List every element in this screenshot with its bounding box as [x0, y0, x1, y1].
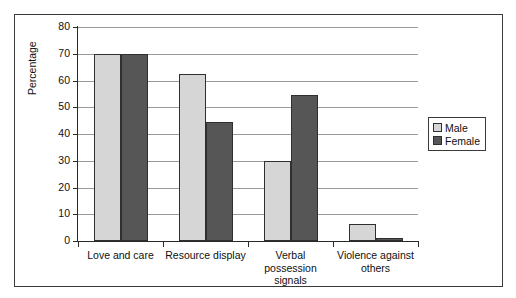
- x-tick-mark: [333, 241, 334, 247]
- y-tick-mark: [73, 81, 78, 82]
- y-tick-mark: [73, 107, 78, 108]
- plot-area: [78, 27, 418, 241]
- bar-male-0: [94, 54, 121, 241]
- y-tick-mark: [73, 54, 78, 55]
- y-tick-mark: [73, 27, 78, 28]
- bar-female-2: [291, 95, 318, 241]
- x-axis-label-0: Love and care: [78, 249, 163, 262]
- bar-male-2: [264, 161, 291, 241]
- legend-item-female[interactable]: Female: [433, 134, 480, 147]
- y-tick-mark: [73, 134, 78, 135]
- legend-label-male: Male: [445, 122, 468, 134]
- y-tick-label: 30: [58, 154, 70, 167]
- x-axis-label-3: Violence against others: [333, 249, 418, 274]
- y-tick-mark: [73, 161, 78, 162]
- bar-female-1: [206, 122, 233, 241]
- y-tick-label: 80: [58, 20, 70, 33]
- x-tick-mark: [418, 241, 419, 247]
- y-tick-label: 40: [58, 127, 70, 140]
- x-tick-mark: [248, 241, 249, 247]
- x-axis-label-1: Resource display: [163, 249, 248, 262]
- x-axis-label-2: Verbal possession signals: [248, 249, 333, 287]
- legend-item-male[interactable]: Male: [433, 121, 480, 134]
- y-axis-title: Percentage: [26, 41, 38, 95]
- y-tick-label: 20: [58, 181, 70, 194]
- x-tick-mark: [78, 241, 79, 247]
- chart-figure: Percentage 01020304050607080 Love and ca…: [0, 0, 516, 298]
- legend-label-female: Female: [445, 135, 480, 147]
- y-tick-label: 10: [58, 207, 70, 220]
- legend-swatch-male-icon: [433, 123, 442, 132]
- y-tick-label: 0: [64, 234, 70, 247]
- gridline: [78, 27, 418, 28]
- y-tick-mark: [73, 188, 78, 189]
- y-tick-label: 70: [58, 47, 70, 60]
- bar-female-0: [121, 54, 148, 241]
- chart-legend: Male Female: [428, 117, 486, 151]
- bar-male-3: [349, 224, 376, 241]
- y-tick-label: 50: [58, 100, 70, 113]
- y-tick-mark: [73, 214, 78, 215]
- y-tick-label: 60: [58, 74, 70, 87]
- legend-swatch-female-icon: [433, 136, 442, 145]
- bar-male-1: [179, 74, 206, 241]
- x-tick-mark: [163, 241, 164, 247]
